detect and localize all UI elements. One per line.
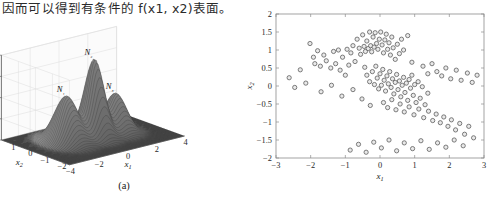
surface-plot-svg: 00.10.20.30.4p(x1,x2)210−1−2x2−4−2024x1 … [0,18,246,178]
caption-a: (a) [104,180,144,191]
svg-text:1: 1 [11,143,15,152]
svg-text:3: 3 [482,161,486,170]
svg-text:0: 0 [268,82,272,91]
svg-text:−4: −4 [66,167,76,176]
svg-text:2: 2 [155,145,159,154]
scatter-plot-svg: −3−2−10123−2−1.5−1−0.500.511.52 x1x2 [246,0,492,197]
svg-text:0: 0 [28,149,32,158]
svg-text:x1: x1 [375,171,383,182]
svg-text:1: 1 [268,46,272,55]
svg-text:1: 1 [413,161,417,170]
svg-text:−1: −1 [341,161,350,170]
figure-container: 因而可以得到有条件的 f(x1, x2)表面。 00.10.20.30.4p(x… [0,0,492,197]
body-text: 因而可以得到有条件的 f(x1, x2)表面。 [2,0,232,17]
svg-text:0.5: 0.5 [262,64,272,73]
svg-text:−1.5: −1.5 [257,136,272,145]
svg-text:2: 2 [268,10,272,19]
svg-text:−2: −2 [95,160,104,169]
svg-text:−3: −3 [272,161,281,170]
panel-b-scatter-plot: −3−2−10123−2−1.5−1−0.500.511.52 x1x2 (b) [246,0,492,197]
panel-a-surface-plot: 00.10.20.30.4p(x1,x2)210−1−2x2−4−2024x1 … [0,18,246,197]
svg-text:−1: −1 [40,156,49,165]
svg-text:0: 0 [378,161,382,170]
svg-text:−2: −2 [263,154,272,163]
svg-text:−1: −1 [263,118,272,127]
svg-text:x1: x1 [123,159,131,170]
svg-text:−2: −2 [306,161,315,170]
svg-text:−0.5: −0.5 [257,100,272,109]
svg-text:1.5: 1.5 [262,28,272,37]
svg-text:4: 4 [184,138,189,147]
svg-text:2: 2 [447,161,451,170]
svg-text:x2: x2 [15,157,23,168]
svg-text:x2: x2 [246,82,255,90]
